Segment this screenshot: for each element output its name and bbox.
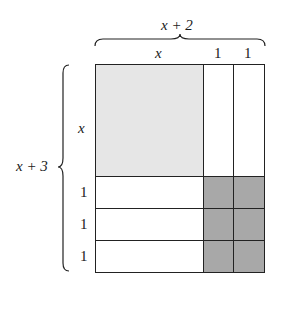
top-brace <box>93 34 268 48</box>
row-label-1c: 1 <box>80 249 88 264</box>
tile-x-horizontal-1 <box>95 176 204 209</box>
row-label-x: x <box>78 121 85 136</box>
tile-x-squared <box>95 64 204 177</box>
tile-unit <box>233 208 265 241</box>
tile-x-horizontal-3 <box>95 240 204 273</box>
left-brace <box>57 63 71 275</box>
width-total-label: x + 2 <box>161 18 193 33</box>
row-label-1b: 1 <box>80 217 88 232</box>
height-total-text: x + 3 <box>16 158 48 174</box>
tile-unit <box>203 176 234 209</box>
tile-unit <box>203 240 234 273</box>
column-label-x: x <box>155 46 162 61</box>
height-total-label: x + 3 <box>16 159 48 174</box>
tile-x-vertical-1 <box>203 64 234 177</box>
tile-x-horizontal-2 <box>95 208 204 241</box>
column-label-1b: 1 <box>244 46 252 61</box>
column-label-1a: 1 <box>214 46 222 61</box>
tile-x-vertical-2 <box>233 64 265 177</box>
tile-unit <box>233 176 265 209</box>
row-label-1a: 1 <box>80 185 88 200</box>
width-total-text: x + 2 <box>161 17 193 33</box>
tile-unit <box>233 240 265 273</box>
tile-unit <box>203 208 234 241</box>
